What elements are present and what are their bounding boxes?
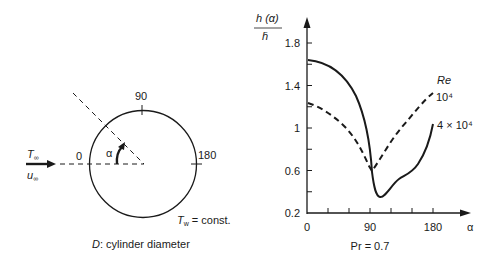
y-tick-label: 1.8 bbox=[285, 37, 300, 49]
y-ticks bbox=[307, 43, 312, 192]
x-tick-label: 0 bbox=[304, 221, 310, 233]
alpha-symbol: α bbox=[106, 147, 113, 159]
x-ticks bbox=[328, 208, 433, 213]
heat-transfer-chart: 0.2 0.6 1 1.4 1.8 0 90 180 α h (α) h̄ Re… bbox=[254, 12, 474, 252]
y-axis-label-numerator: h (α) bbox=[256, 12, 279, 24]
free-stream-velocity-label: u∞ bbox=[27, 169, 38, 182]
angle-arc-arrow-icon bbox=[117, 142, 125, 164]
series-re-4e4-solid bbox=[308, 60, 433, 197]
y-tick-label: 1.4 bbox=[285, 80, 300, 92]
legend-title: Re bbox=[437, 74, 451, 86]
free-stream-temp-label: T∞ bbox=[27, 148, 39, 161]
x-tick-label: 180 bbox=[424, 221, 442, 233]
x-axis-arrow-icon bbox=[460, 210, 471, 217]
angle-90-label: 90 bbox=[135, 90, 147, 102]
legend-label-re-1e4: 10⁴ bbox=[436, 91, 453, 103]
y-axis-label-denominator: h̄ bbox=[262, 30, 268, 42]
wall-temp-label: Tw = const. bbox=[177, 214, 231, 227]
x-tick-label: 90 bbox=[364, 221, 376, 233]
y-tick-label: 0.6 bbox=[285, 165, 300, 177]
cylinder-diagram: T∞ u∞ 0 90 180 α Tw = const. D: cylinder… bbox=[26, 90, 231, 250]
legend-label-re-4e4: 4 × 10⁴ bbox=[437, 119, 473, 131]
angle-180-label: 180 bbox=[198, 149, 216, 161]
y-tick-label: 0.2 bbox=[285, 207, 300, 219]
y-tick-label: 1 bbox=[294, 122, 300, 134]
angle-0-label: 0 bbox=[76, 150, 82, 162]
diagram-caption: D: cylinder diameter bbox=[92, 238, 190, 250]
prandtl-footnote: Pr = 0.7 bbox=[351, 240, 390, 252]
x-axis-label: α bbox=[467, 221, 474, 233]
flow-arrow-icon bbox=[26, 160, 56, 168]
figure-canvas: T∞ u∞ 0 90 180 α Tw = const. D: cylinder… bbox=[0, 0, 489, 263]
y-axis-arrow-icon bbox=[304, 17, 311, 28]
